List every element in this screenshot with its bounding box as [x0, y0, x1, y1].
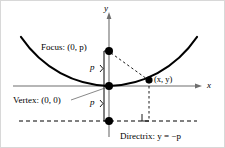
parabola-figure: y x Focus: (0, p) Vertex: (0, 0) Directr…	[0, 0, 225, 148]
x-axis-label: x	[207, 81, 211, 90]
vertex-point	[105, 82, 113, 90]
vertex-leader-line	[71, 88, 105, 100]
directrix-label: Directrix: y = −p	[120, 132, 181, 141]
figure-canvas	[1, 1, 225, 148]
p-brace-upper-pointer	[100, 65, 103, 72]
vertex-label: Vertex: (0, 0)	[13, 96, 61, 105]
p-label-lower: p	[90, 98, 95, 107]
p-brace-upper	[100, 51, 108, 86]
point-label: (x, y)	[154, 75, 172, 84]
directrix-foot-point	[105, 117, 113, 125]
x-axis-arrowhead	[195, 84, 202, 89]
focus-point	[105, 47, 113, 55]
y-axis-label: y	[104, 4, 108, 13]
p-label-upper: p	[90, 63, 95, 72]
p-brace-lower-pointer	[100, 100, 103, 107]
parabola-point	[145, 76, 152, 83]
right-angle-marker	[142, 114, 149, 121]
y-axis-arrowhead	[107, 12, 112, 19]
p-brace-lower	[100, 86, 108, 121]
focal-radius-dashed-segment	[111, 53, 147, 79]
focus-label: Focus: (0, p)	[41, 43, 87, 52]
